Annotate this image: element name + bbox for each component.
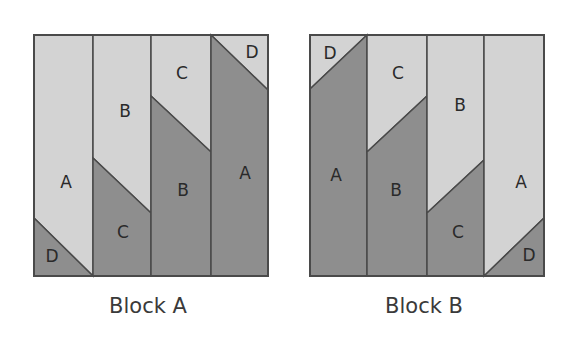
block-a-label-col2-bottom: C [117,222,129,242]
block-a-label-col1-bottom: D [45,246,58,266]
block-a: A D B C C B D A Block A [34,35,268,318]
block-a-label-col4-bottom: A [239,163,251,183]
block-b-label-col2-bottom: B [390,180,402,200]
block-a-caption: Block A [109,294,187,318]
block-a-label-col1-top: A [60,172,72,192]
block-a-label-col3-top: C [176,63,188,83]
block-b-label-col2-top: C [392,63,404,83]
block-a-label-col3-bottom: B [177,180,189,200]
block-b-label-col4-bottom: D [522,245,535,265]
block-b-label-col1-bottom: A [330,165,342,185]
block-b-label-col3-top: B [454,95,466,115]
block-b-caption: Block B [385,294,463,318]
block-b-label-col3-bottom: C [452,222,464,242]
quilt-block-diagram: A D B C C B D A Block A D A C B B C A D … [0,0,572,338]
block-b: D A C B B C A D Block B [310,35,544,318]
block-a-label-col4-top: D [245,42,258,62]
block-b-label-col4-top: A [515,172,527,192]
block-a-label-col2-top: B [119,101,131,121]
block-b-label-col1-top: D [323,43,336,63]
